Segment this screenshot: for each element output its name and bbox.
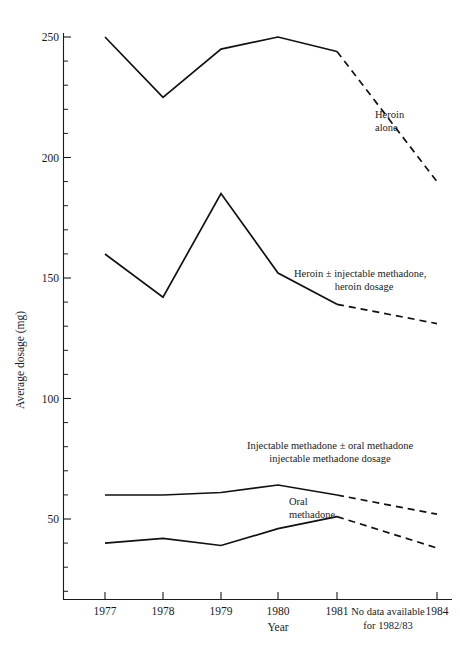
series-heroin-plus-injectable: Heroin ± injectable methadone, heroin do… (105, 194, 437, 324)
series-oral-methadone-solid (105, 517, 337, 546)
line-chart: 250 200 150 100 50 Average dosage (mg) 1… (0, 0, 460, 654)
no-data-note-line2: for 1982/83 (363, 620, 412, 631)
y-label-250: 250 (42, 31, 60, 43)
x-label-1978: 1978 (152, 605, 175, 617)
y-minor-ticks (64, 61, 69, 591)
series-injectable-methadone: Injectable methadone ± oral methadone in… (105, 440, 437, 514)
y-tick-labels: 250 200 150 100 50 (42, 31, 60, 525)
series-heroin-alone-label-line2: alone (375, 122, 398, 133)
x-ticks (105, 592, 437, 600)
series-heroin-alone: Heroin alone (105, 37, 437, 182)
series-oral-methadone-label-line2: methadone (289, 509, 335, 520)
series-heroin-plus-injectable-dashed (337, 304, 437, 323)
x-label-1981: 1981 (326, 605, 349, 617)
series-heroin-alone-label-line1: Heroin (375, 109, 405, 120)
figure-container: 250 200 150 100 50 Average dosage (mg) 1… (0, 0, 460, 654)
no-data-note-line1: No data available (351, 606, 425, 617)
y-label-50: 50 (48, 513, 60, 525)
series-injectable-methadone-label-line2: injectable methadone dosage (269, 453, 391, 464)
y-axis-title: Average dosage (mg) (14, 311, 27, 409)
x-label-1980: 1980 (267, 605, 290, 617)
series-heroin-alone-solid (105, 37, 337, 97)
series-injectable-methadone-label-line1: Injectable methadone ± oral methadone (247, 440, 413, 451)
x-axis-title: Year (267, 621, 288, 633)
series-heroin-plus-injectable-label-line1: Heroin ± injectable methadone, (294, 268, 426, 279)
y-label-100: 100 (42, 393, 60, 405)
x-label-1977: 1977 (94, 605, 117, 617)
no-data-note: No data available for 1982/83 (351, 606, 425, 631)
x-label-1984: 1984 (426, 605, 449, 617)
series-injectable-methadone-dashed (337, 495, 437, 514)
series-oral-methadone-dashed (337, 517, 437, 548)
series-oral-methadone-label-line1: Oral (289, 496, 308, 507)
series-injectable-methadone-solid (105, 485, 337, 495)
y-label-200: 200 (42, 152, 60, 164)
y-label-150: 150 (42, 272, 60, 284)
series-heroin-plus-injectable-label-line2: heroin dosage (335, 281, 394, 292)
x-label-1979: 1979 (210, 605, 233, 617)
series-heroin-plus-injectable-solid (105, 194, 337, 305)
